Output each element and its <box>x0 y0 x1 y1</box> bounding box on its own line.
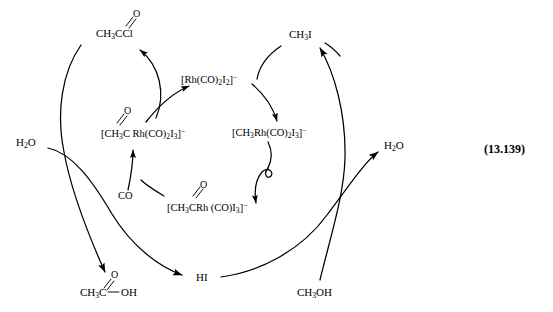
arrowhead-tail-methyliodide <box>325 43 340 56</box>
label-acetyl-rhodium-monocarbonyl: [CH3CRh (CO)I3]− <box>167 202 247 215</box>
arc-bottomcomplex-to-co <box>141 180 164 196</box>
label-methyl-rhodium: [CH3Rh(CO)2I3]− <box>232 127 307 140</box>
arrow-co-to-acetylrh <box>128 150 133 190</box>
arrow-rhcomplex-to-methylrh <box>252 84 277 121</box>
label-hydrogen-iodide: HI <box>196 272 208 283</box>
label-acetyl-rhodium-tricarbonyl: [CH3C Rh(CO)2I3]− <box>101 128 185 141</box>
arrow-methylrh-down-seg1 <box>268 142 271 168</box>
label-carbon-monoxide: CO <box>118 191 133 202</box>
label-acetic-acid: CH3C <box>80 287 106 299</box>
reaction-scheme: CH3CCl O CH3I [Rh(CO)2I2]− [CH3C Rh(CO)2… <box>0 0 553 312</box>
label-acetic-acid-hydroxyl: OH <box>121 287 137 298</box>
arrow-methyliodide-inbound <box>257 46 281 79</box>
label-methanol: CH3OH <box>297 287 332 299</box>
label-water-right: H2O <box>384 140 404 152</box>
label-acetyl-chloride-oxygen: O <box>133 8 140 19</box>
arc-acetylchloride-to-aceticacid <box>61 45 105 272</box>
label-acetic-acid-oxygen: O <box>111 269 118 280</box>
label-bottom-complex-oxygen: O <box>200 179 207 190</box>
equation-number: (13.139) <box>484 143 525 155</box>
label-acetyl-chloride: CH3CCl <box>96 28 133 40</box>
label-rhodium-dicarbonyl-diiodide: [Rh(CO)2I2]− <box>181 74 237 87</box>
arrow-acetylrh-to-rhcomplex <box>146 86 189 122</box>
label-water-left: H2O <box>16 137 36 149</box>
label-acetyl-rhodium-oxygen: O <box>124 105 131 116</box>
arc-methanol-to-methyliodide <box>320 48 345 280</box>
label-methyl-iodide: CH3I <box>289 29 312 41</box>
arrow-methylrh-loop-and-down <box>255 168 272 203</box>
arrow-layer <box>0 0 553 312</box>
arc-water-to-hi <box>48 148 182 275</box>
